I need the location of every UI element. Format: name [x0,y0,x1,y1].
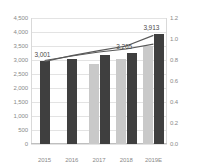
y-axis-left-tick-label: 3,500 [2,43,28,49]
data-label: 3,265 [116,43,132,50]
x-axis-tick-label: 2017 [85,157,112,164]
y-axis-left-tick-label: 500 [2,127,28,133]
chart-container: 05001,0001,5002,0002,5003,0003,5004,0004… [0,0,197,166]
y-axis-left-tick-label: 4,500 [2,15,28,21]
y-axis-right-tick-label: 1.0 [170,36,194,42]
y-axis-right-tick-label: 1.2 [170,15,194,21]
data-label: 3,001 [35,51,51,58]
y-axis-left-tick-label: 2,000 [2,85,28,91]
y-axis-left-tick-label: 0 [2,141,28,147]
y-axis-right-tick-label: 0.4 [170,99,194,105]
line-path [45,35,154,61]
y-axis-left-tick-label: 1,000 [2,113,28,119]
y-axis-right-tick-label: 0.0 [170,141,194,147]
y-axis-right-tick-label: 0.8 [170,57,194,63]
x-axis-tick-label: 2015 [31,157,58,164]
y-axis-left-tick-label: 3,000 [2,57,28,63]
plot-area: 3,0013,2653,913 [31,18,167,144]
y-axis-left-tick-label: 1,500 [2,99,28,105]
x-axis-tick-label: 2019E [140,157,167,164]
y-axis-left-tick-label: 4,000 [2,29,28,35]
y-axis-left-tick-label: 2,500 [2,71,28,77]
x-axis-tick-label: 2018 [113,157,140,164]
x-axis-tick-label: 2016 [58,157,85,164]
y-axis-right-tick-label: 0.6 [170,78,194,84]
y-axis-right-tick-label: 0.2 [170,120,194,126]
line-series-group [31,18,167,144]
data-label: 3,913 [143,24,159,31]
